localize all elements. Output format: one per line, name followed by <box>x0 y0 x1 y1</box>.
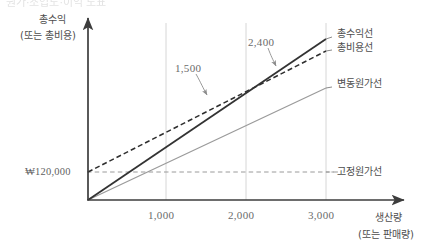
cvp-chart-figure: 원가·조업도·이익 도표 <box>0 0 434 251</box>
legend-item-total-cost: 총비용선 <box>337 42 373 54</box>
x-tick-label-3000: 3,000 <box>308 209 334 222</box>
callout-arrow-1500 <box>196 74 207 95</box>
legend-item-total-revenue: 총수익선 <box>337 28 373 40</box>
legend-leader-variable <box>326 87 332 88</box>
vertical-gridlines <box>166 23 326 200</box>
callout-arrow-2400 <box>268 48 276 66</box>
legend-item-variable-cost: 변동원가선 <box>337 78 382 90</box>
x-axis-title-line2: (또는 판매량) <box>340 229 432 241</box>
annotation-label-1500: 1,500 <box>175 62 201 75</box>
y-tick-label-120000: ₩120,000 <box>25 166 71 178</box>
legend-leader-marks <box>326 37 334 172</box>
legend-leader-cost <box>326 50 332 51</box>
legend-leader-revenue <box>326 37 332 39</box>
total-cost-line <box>88 51 326 172</box>
y-axis-title-line1: 총수익 <box>14 14 90 26</box>
y-axis-title-line2: (또는 총비용) <box>6 30 90 42</box>
total-revenue-line <box>88 39 326 200</box>
variable-cost-line <box>88 88 326 200</box>
x-tick-label-1000: 1,000 <box>148 209 174 222</box>
annotation-label-2400: 2,400 <box>248 36 274 49</box>
x-tick-label-2000: 2,000 <box>228 209 254 222</box>
legend-item-fixed-cost: 고정원가선 <box>337 166 382 178</box>
x-axis-title-line1: 생산량 <box>356 212 420 224</box>
